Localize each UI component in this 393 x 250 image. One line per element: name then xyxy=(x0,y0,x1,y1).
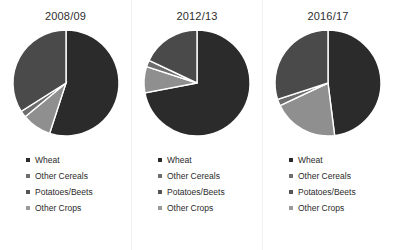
legend-label: Wheat xyxy=(35,154,60,166)
list-item: Other Crops xyxy=(289,202,393,214)
list-item: Potatoes/Beets xyxy=(26,186,131,198)
legend-label: Other Cereals xyxy=(167,170,220,182)
list-item: Other Cereals xyxy=(158,170,262,182)
legend-label: Other Cereals xyxy=(35,170,88,182)
pie-chart-figure: 2008/09 Wheat Other Cereals Potatoes/Bee… xyxy=(0,0,393,250)
legend-label: Potatoes/Beets xyxy=(298,186,356,198)
legend-label: Other Crops xyxy=(167,202,213,214)
page-title: 2016/17 xyxy=(307,9,348,23)
pie-svg xyxy=(273,28,383,138)
legend-label: Wheat xyxy=(298,154,323,166)
chart-panel-2016-17: 2016/17 Wheat Other Cereals Potatoes/Bee… xyxy=(262,0,393,250)
pie-svg xyxy=(11,28,121,138)
list-item: Potatoes/Beets xyxy=(289,186,393,198)
list-item: Wheat xyxy=(158,154,262,166)
square-marker-other-crops-icon xyxy=(289,206,293,210)
legend-label: Potatoes/Beets xyxy=(167,186,225,198)
legend-label: Other Cereals xyxy=(298,170,351,182)
square-marker-other-crops-icon xyxy=(158,206,162,210)
square-marker-other-cereals-icon xyxy=(289,174,293,178)
square-marker-wheat-icon xyxy=(26,158,30,162)
pie-slice xyxy=(328,30,381,136)
chart-panel-2012-13: 2012/13 Wheat Other Cereals Potatoes/Bee… xyxy=(131,0,262,250)
square-marker-potatoes-beets-icon xyxy=(289,190,293,194)
list-item: Other Crops xyxy=(158,202,262,214)
pie-slices xyxy=(12,30,118,136)
square-marker-potatoes-beets-icon xyxy=(26,190,30,194)
pie-svg xyxy=(142,28,252,138)
pie-chart-2016-17 xyxy=(273,28,383,138)
list-item: Potatoes/Beets xyxy=(158,186,262,198)
legend-2008-09: Wheat Other Cereals Potatoes/Beets Other… xyxy=(0,154,131,214)
page-title: 2012/13 xyxy=(176,9,217,23)
pie-chart-2012-13 xyxy=(142,28,252,138)
square-marker-wheat-icon xyxy=(289,158,293,162)
list-item: Wheat xyxy=(289,154,393,166)
list-item: Wheat xyxy=(26,154,131,166)
legend-2016-17: Wheat Other Cereals Potatoes/Beets Other… xyxy=(263,154,393,214)
legend-label: Other Crops xyxy=(298,202,344,214)
pie-slices xyxy=(144,30,250,136)
legend-2012-13: Wheat Other Cereals Potatoes/Beets Other… xyxy=(132,154,262,214)
chart-panel-2008-09: 2008/09 Wheat Other Cereals Potatoes/Bee… xyxy=(0,0,131,250)
pie-chart-2008-09 xyxy=(11,28,121,138)
list-item: Other Cereals xyxy=(26,170,131,182)
square-marker-other-cereals-icon xyxy=(158,174,162,178)
square-marker-wheat-icon xyxy=(158,158,162,162)
legend-label: Other Crops xyxy=(35,202,81,214)
square-marker-potatoes-beets-icon xyxy=(158,190,162,194)
list-item: Other Crops xyxy=(26,202,131,214)
square-marker-other-crops-icon xyxy=(26,206,30,210)
page-title: 2008/09 xyxy=(45,9,86,23)
legend-label: Wheat xyxy=(167,154,192,166)
square-marker-other-cereals-icon xyxy=(26,174,30,178)
legend-label: Potatoes/Beets xyxy=(35,186,93,198)
list-item: Other Cereals xyxy=(289,170,393,182)
pie-slices xyxy=(275,30,381,136)
